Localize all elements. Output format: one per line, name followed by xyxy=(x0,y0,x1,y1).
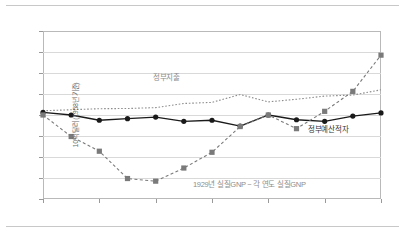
data-point-marker xyxy=(350,89,355,94)
x-tick-mark xyxy=(99,199,100,203)
x-tick-mark xyxy=(212,199,213,203)
data-point-marker xyxy=(125,176,130,181)
x-tick-mark xyxy=(268,199,269,203)
data-point-marker xyxy=(40,112,45,117)
x-tick-mark xyxy=(381,199,382,203)
data-point-marker xyxy=(125,116,130,121)
plot-area: 80.060.040.020.00.0-20.0-40.0-60.0-80.0 … xyxy=(43,31,381,199)
bottom-divider xyxy=(6,226,399,227)
data-point-marker xyxy=(294,126,299,131)
data-point-marker xyxy=(209,118,214,123)
data-point-marker xyxy=(97,149,102,154)
annotation-budget-deficit: 정부예산적자 xyxy=(308,123,348,134)
x-tick-mark xyxy=(156,199,157,203)
data-point-marker xyxy=(153,115,158,120)
y-axis-title: 10억 달러 (1958년 기준) xyxy=(70,55,80,175)
data-point-marker xyxy=(153,179,158,184)
annotation-government-spending: 정부지출 xyxy=(153,71,180,82)
data-point-marker xyxy=(322,109,327,114)
chart-figure: 80.060.040.020.00.0-20.0-40.0-60.0-80.0 … xyxy=(0,0,405,231)
data-point-marker xyxy=(181,119,186,124)
top-divider xyxy=(6,5,399,6)
data-point-marker xyxy=(350,113,355,118)
data-point-marker xyxy=(378,53,383,58)
annotation-gnp-gap: 1929년 실질GNP − 각 연도 실질GNP xyxy=(193,178,306,189)
x-tick-mark xyxy=(325,199,326,203)
data-point-marker xyxy=(378,110,383,115)
data-point-marker xyxy=(181,165,186,170)
data-point-marker xyxy=(209,150,214,155)
data-point-marker xyxy=(97,118,102,123)
data-point-marker xyxy=(266,112,271,117)
series-layer xyxy=(43,31,381,199)
data-point-marker xyxy=(238,124,243,129)
x-tick-mark xyxy=(43,199,44,203)
data-point-marker xyxy=(294,117,299,122)
